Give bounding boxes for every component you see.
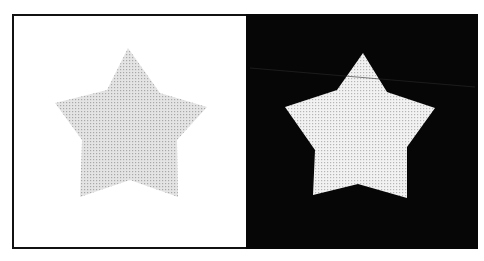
left-star-icon	[55, 48, 207, 197]
right-star-icon	[285, 53, 435, 198]
stars-canvas	[0, 0, 484, 261]
